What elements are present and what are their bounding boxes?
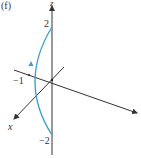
- origin-point: [51, 79, 53, 81]
- z-tick-2: 2: [44, 18, 49, 29]
- z-axis-label: z: [49, 0, 54, 8]
- y-axis: [14, 70, 137, 113]
- z-tick-minus2: −2: [39, 135, 50, 146]
- 3d-axes-diagram: (f) z x 2 −2 −1: [0, 0, 141, 158]
- parametric-curve: [35, 27, 52, 135]
- y-tick-minus1: −1: [13, 75, 24, 86]
- panel-label: (f): [1, 0, 11, 12]
- curve-direction-arrow-icon: [29, 61, 34, 66]
- x-axis-label: x: [7, 121, 13, 132]
- y-minus1-point: [28, 74, 30, 76]
